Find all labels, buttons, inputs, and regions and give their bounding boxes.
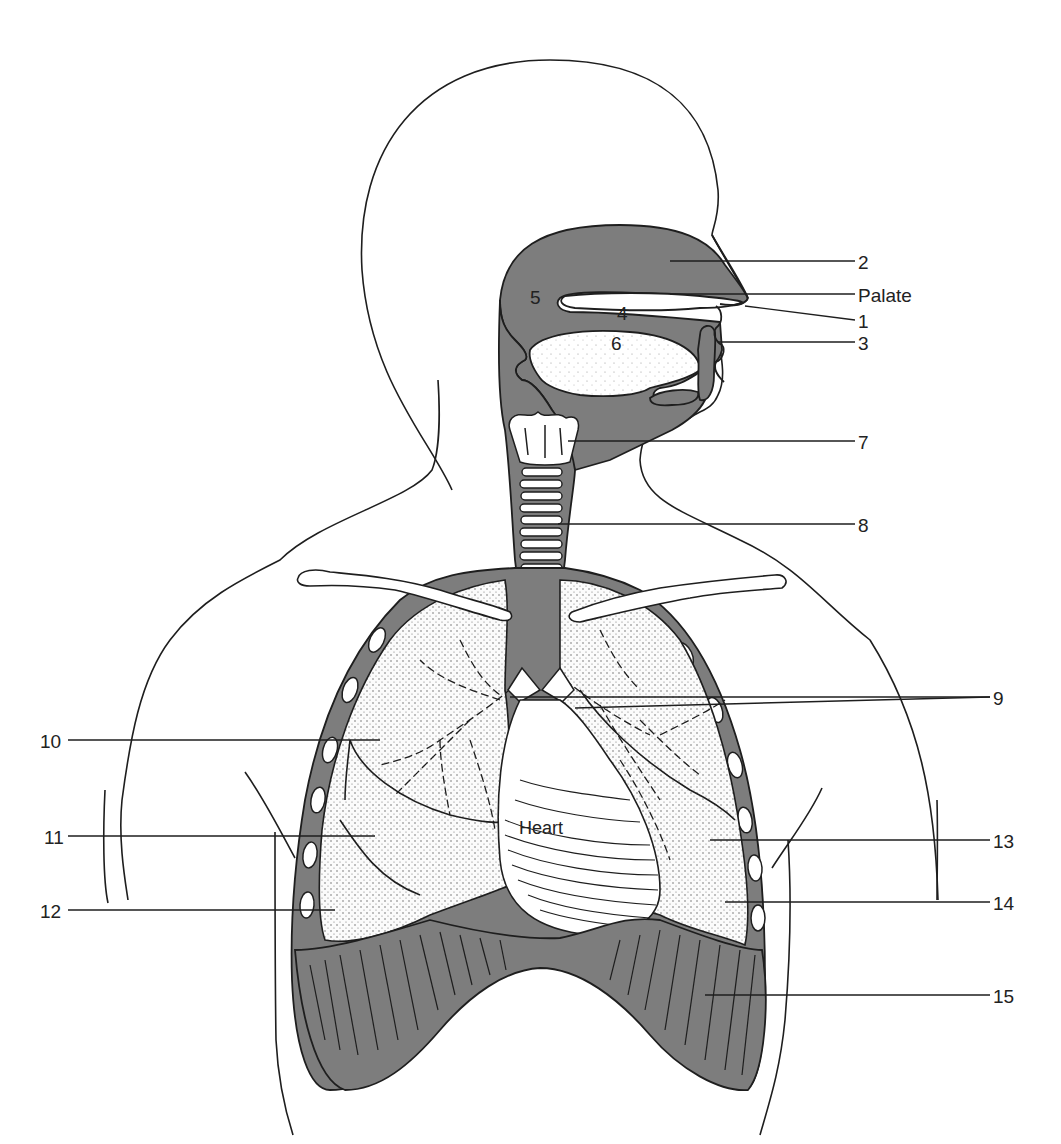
callout-palate: Palate	[858, 286, 912, 305]
respiratory-diagram: 5 4 6 Heart 2 Palate 1 3 7 8 9 10 11 12 …	[0, 0, 1061, 1144]
label-5: 5	[530, 288, 541, 307]
callout-11: 11	[44, 828, 64, 847]
callout-10: 10	[40, 732, 61, 751]
callout-3: 3	[858, 334, 869, 353]
diaphragm	[295, 919, 766, 1090]
diagram-illustration	[0, 0, 1061, 1144]
callout-12: 12	[40, 902, 61, 921]
callout-15: 15	[993, 987, 1014, 1006]
callout-9: 9	[993, 689, 1004, 708]
larynx	[509, 412, 578, 465]
callout-8: 8	[858, 516, 869, 535]
callout-2: 2	[858, 253, 869, 272]
callout-1: 1	[858, 312, 869, 331]
callout-7: 7	[858, 433, 869, 452]
callout-13: 13	[993, 832, 1014, 851]
label-6: 6	[611, 334, 622, 353]
label-heart: Heart	[519, 818, 563, 839]
label-4: 4	[617, 304, 628, 323]
callout-14: 14	[993, 894, 1014, 913]
